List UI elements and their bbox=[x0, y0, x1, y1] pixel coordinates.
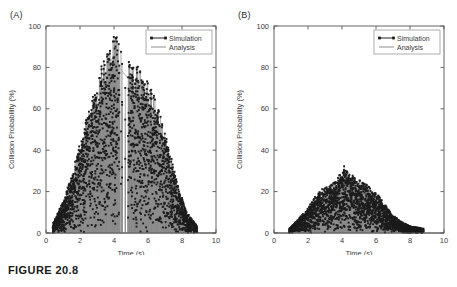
svg-text:0: 0 bbox=[272, 236, 276, 245]
chart-legend: SimulationAnalysis bbox=[146, 30, 212, 54]
svg-text:0: 0 bbox=[44, 236, 48, 245]
svg-text:40: 40 bbox=[33, 146, 41, 155]
plot-area-a: 0246810020406080100Time (s)Collision Pro… bbox=[0, 0, 228, 255]
svg-text:Analysis: Analysis bbox=[397, 44, 424, 52]
svg-text:100: 100 bbox=[28, 22, 41, 31]
svg-text:Time (s): Time (s) bbox=[345, 249, 373, 255]
svg-text:Simulation: Simulation bbox=[397, 35, 430, 42]
svg-text:10: 10 bbox=[440, 236, 448, 245]
svg-text:Analysis: Analysis bbox=[169, 44, 196, 52]
svg-text:8: 8 bbox=[180, 236, 184, 245]
svg-text:4: 4 bbox=[112, 236, 116, 245]
stem-lines bbox=[53, 37, 197, 233]
svg-text:2: 2 bbox=[78, 236, 82, 245]
svg-text:2: 2 bbox=[306, 236, 310, 245]
svg-text:Simulation: Simulation bbox=[169, 35, 202, 42]
svg-text:Collision Probability (%): Collision Probability (%) bbox=[235, 89, 244, 169]
chart-panel-b: (B) 0246810020406080100Time (s)Collision… bbox=[228, 0, 456, 255]
svg-text:4: 4 bbox=[340, 236, 344, 245]
figure-container: (A) 0246810020406080100Time (s)Collision… bbox=[0, 0, 457, 287]
svg-text:60: 60 bbox=[261, 104, 269, 113]
svg-text:0: 0 bbox=[265, 229, 269, 238]
svg-text:0: 0 bbox=[37, 229, 41, 238]
plot-area-b: 0246810020406080100Time (s)Collision Pro… bbox=[228, 0, 456, 255]
svg-text:10: 10 bbox=[212, 236, 220, 245]
svg-text:40: 40 bbox=[261, 146, 269, 155]
svg-text:8: 8 bbox=[408, 236, 412, 245]
svg-text:80: 80 bbox=[261, 63, 269, 72]
svg-text:6: 6 bbox=[374, 236, 378, 245]
svg-text:6: 6 bbox=[146, 236, 150, 245]
figure-caption: FIGURE 20.8 bbox=[8, 264, 78, 276]
svg-text:100: 100 bbox=[256, 22, 269, 31]
svg-text:Collision Probability (%): Collision Probability (%) bbox=[7, 89, 16, 169]
svg-text:20: 20 bbox=[33, 187, 41, 196]
chart-legend: SimulationAnalysis bbox=[374, 30, 440, 54]
svg-text:60: 60 bbox=[33, 104, 41, 113]
chart-panel-a: (A) 0246810020406080100Time (s)Collision… bbox=[0, 0, 228, 255]
svg-text:20: 20 bbox=[261, 187, 269, 196]
svg-text:Time (s): Time (s) bbox=[117, 249, 145, 255]
svg-text:80: 80 bbox=[33, 63, 41, 72]
data-markers bbox=[288, 165, 424, 233]
